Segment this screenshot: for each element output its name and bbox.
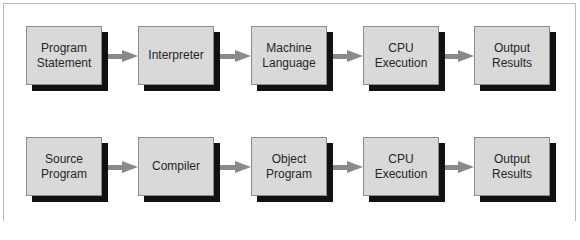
node-label: Output Results <box>474 26 550 85</box>
arrow-right-icon <box>220 50 251 62</box>
arrow-right-icon <box>333 50 363 62</box>
node-label: Machine Language <box>251 26 327 85</box>
arrow-right-icon <box>108 50 138 62</box>
node-label: Compiler <box>138 137 214 196</box>
node-program-statement: Program Statement <box>26 26 102 85</box>
node-label: Object Program <box>251 137 327 196</box>
arrow-right-icon <box>108 161 138 173</box>
node-object-program: Object Program <box>251 137 327 196</box>
node-machine-language: Machine Language <box>251 26 327 85</box>
node-output-results: Output Results <box>474 26 550 85</box>
node-cpu-execution: CPU Execution <box>363 137 439 196</box>
arrow-right-icon <box>445 50 474 62</box>
node-label: Program Statement <box>26 26 102 85</box>
interpreter-flow-row: Program Statement Interpreter Machine La… <box>0 26 580 96</box>
node-cpu-execution: CPU Execution <box>363 26 439 85</box>
arrow-right-icon <box>220 161 251 173</box>
node-label: CPU Execution <box>363 137 439 196</box>
node-source-program: Source Program <box>26 137 102 196</box>
arrow-right-icon <box>445 161 474 173</box>
compiler-flow-row: Source Program Compiler Object Program C… <box>0 137 580 207</box>
node-label: CPU Execution <box>363 26 439 85</box>
node-label: Output Results <box>474 137 550 196</box>
node-output-results: Output Results <box>474 137 550 196</box>
node-compiler: Compiler <box>138 137 214 196</box>
node-interpreter: Interpreter <box>138 26 214 85</box>
arrow-right-icon <box>333 161 363 173</box>
node-label: Interpreter <box>138 26 214 85</box>
node-label: Source Program <box>26 137 102 196</box>
